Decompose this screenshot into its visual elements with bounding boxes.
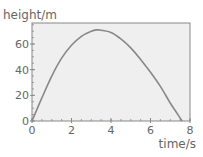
plot-area [32, 23, 190, 121]
x-tick-labels: 02468 [29, 124, 194, 137]
x-axis-label: time/s [159, 137, 196, 151]
x-tick-label: 4 [108, 124, 115, 137]
y-tick-label: 40 [15, 64, 29, 77]
y-tick-label: 20 [15, 89, 29, 102]
x-tick-label: 2 [68, 124, 75, 137]
x-tick-label: 0 [29, 124, 36, 137]
y-tick-label: 0 [22, 115, 29, 128]
x-tick-label: 6 [147, 124, 154, 137]
y-tick-label: 60 [15, 38, 29, 51]
chart: 02468 0204060 height/m time/s [0, 0, 203, 157]
y-tick-labels: 0204060 [15, 38, 29, 128]
x-tick-label: 8 [187, 124, 194, 137]
y-axis-label: height/m [3, 8, 57, 22]
